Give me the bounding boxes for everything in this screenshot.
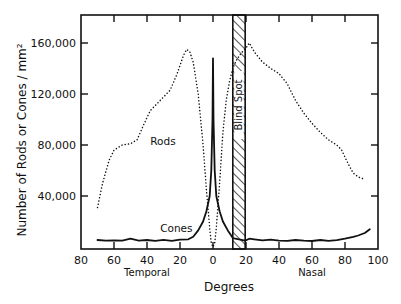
- x-tick-label: 0: [210, 254, 217, 267]
- x-tick-label: 100: [368, 254, 389, 267]
- x-tick-label: 60: [305, 254, 319, 267]
- plot-frame: [81, 15, 378, 249]
- rods-label: Rods: [150, 135, 175, 147]
- x-axis-label: Degrees: [204, 280, 254, 294]
- rods-curve: [98, 43, 365, 247]
- y-tick-label: 80,000: [38, 139, 77, 152]
- x-tick-label: 20: [173, 254, 187, 267]
- y-tick-label: 120,000: [31, 88, 77, 101]
- x-tick-label: 80: [74, 254, 88, 267]
- blind-spot-band: Blind Spot: [233, 15, 245, 249]
- x-tick-label: 40: [140, 254, 154, 267]
- x-tick-label: 80: [338, 254, 352, 267]
- nasal-region-label: Nasal: [298, 267, 326, 278]
- rods-cones-density-chart: Blind Spot 80604020020406080100 40,00080…: [0, 0, 401, 304]
- cones-label: Cones: [160, 222, 192, 234]
- y-tick-label: 160,000: [31, 37, 77, 50]
- y-axis-ticks: 40,00080,000120,000160,000: [31, 37, 379, 203]
- x-axis-ticks: 80604020020406080100: [74, 15, 389, 267]
- y-tick-label: 40,000: [38, 190, 77, 203]
- blind-spot-label: Blind Spot: [233, 79, 244, 130]
- temporal-region-label: Temporal: [123, 267, 170, 278]
- x-tick-label: 20: [239, 254, 253, 267]
- x-tick-label: 40: [272, 254, 286, 267]
- y-axis-label: Number of Rods or Cones / mm²: [15, 43, 29, 236]
- x-tick-label: 60: [107, 254, 121, 267]
